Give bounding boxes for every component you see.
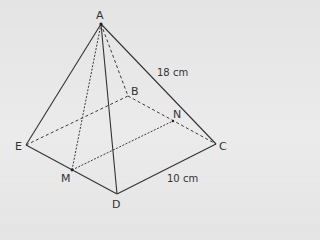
- label-D: D: [112, 198, 120, 211]
- measure-DC: 10 cm: [167, 173, 198, 184]
- pyramid-diagram: A B C D E M N 18 cm 10 cm: [0, 0, 246, 223]
- edge-DC: [117, 144, 216, 194]
- edge-AB: [101, 24, 128, 96]
- segment-MN: [72, 121, 173, 170]
- edge-AC: [101, 24, 216, 144]
- edge-AD: [101, 24, 117, 194]
- measure-AC: 18 cm: [157, 67, 188, 78]
- label-A: A: [96, 9, 104, 22]
- edge-AE: [26, 24, 101, 145]
- point-M: [71, 169, 74, 172]
- label-N: N: [173, 108, 181, 121]
- label-M: M: [61, 172, 71, 185]
- label-C: C: [219, 140, 227, 153]
- point-A: [99, 22, 102, 25]
- edge-BC: [128, 96, 216, 144]
- label-B: B: [131, 85, 139, 98]
- label-E: E: [15, 140, 22, 153]
- segment-AM: [72, 24, 101, 170]
